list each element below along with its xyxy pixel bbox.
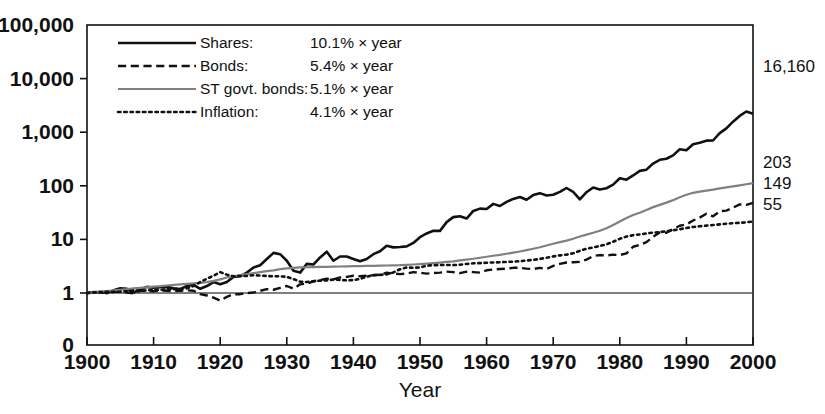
x-tick-label: 1950 bbox=[397, 350, 444, 373]
end-label-bonds: 203 bbox=[763, 153, 791, 172]
x-tick-label: 1900 bbox=[64, 350, 111, 373]
y-tick-label: 100,000 bbox=[0, 13, 74, 36]
legend-rate-1: 5.4% × year bbox=[310, 57, 393, 74]
y-tick-label: 1 bbox=[62, 281, 74, 304]
chart-canvas: 1101001,00010,000100,0000190019101920193… bbox=[0, 0, 825, 414]
x-tick-label: 1940 bbox=[330, 350, 377, 373]
x-axis-title: Year bbox=[399, 378, 441, 401]
end-label-st-govt-bonds: 149 bbox=[763, 174, 791, 193]
series-line-shares bbox=[87, 112, 753, 293]
end-label-inflation: 55 bbox=[763, 195, 782, 214]
x-tick-label: 1990 bbox=[663, 350, 710, 373]
x-tick-label: 1930 bbox=[263, 350, 310, 373]
series-line-inflation bbox=[87, 222, 753, 293]
y-tick-label: 100 bbox=[39, 174, 74, 197]
legend-rate-2: 5.1% × year bbox=[310, 80, 393, 97]
x-tick-label: 1970 bbox=[530, 350, 577, 373]
x-tick-label: 2000 bbox=[730, 350, 777, 373]
y-tick-label: 1,000 bbox=[21, 120, 74, 143]
chart-figure: 1101001,00010,000100,0000190019101920193… bbox=[0, 0, 825, 414]
y-tick-label: 10 bbox=[51, 227, 74, 250]
legend-label-3: Inflation: bbox=[200, 103, 259, 120]
x-tick-label: 1960 bbox=[463, 350, 510, 373]
legend-rate-0: 10.1% × year bbox=[310, 34, 402, 51]
plot-frame bbox=[87, 25, 753, 345]
x-tick-label: 1910 bbox=[130, 350, 177, 373]
legend-label-0: Shares: bbox=[200, 34, 253, 51]
legend-rate-3: 4.1% × year bbox=[310, 103, 393, 120]
x-tick-label: 1920 bbox=[197, 350, 244, 373]
x-tick-label: 1980 bbox=[596, 350, 643, 373]
legend-label-2: ST govt. bonds: bbox=[200, 80, 308, 97]
end-label-shares: 16,160 bbox=[763, 57, 815, 76]
y-tick-label: 10,000 bbox=[10, 67, 74, 90]
legend-label-1: Bonds: bbox=[200, 57, 248, 74]
